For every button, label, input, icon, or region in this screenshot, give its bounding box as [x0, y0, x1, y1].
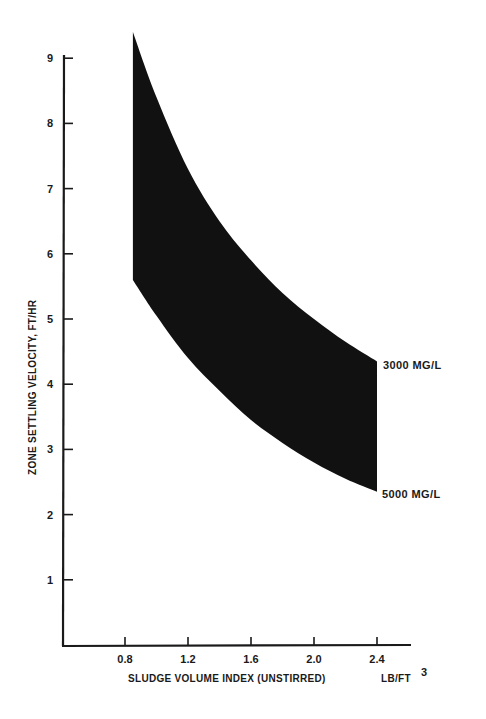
- y-tick-label: 4: [47, 378, 54, 390]
- y-tick-label: 5: [47, 313, 53, 325]
- y-tick-label: 6: [47, 248, 53, 260]
- x-axis: [62, 645, 411, 646]
- y-axis: [63, 55, 64, 646]
- x-axis-units: LB/FT: [381, 673, 411, 684]
- series-label-3000: 3000 MG/L: [383, 359, 442, 371]
- y-axis-ticks: 123456789: [47, 52, 73, 586]
- y-tick-label: 9: [47, 52, 53, 64]
- x-axis-title: SLUDGE VOLUME INDEX (UNSTIRRED): [128, 673, 326, 684]
- y-tick-label: 7: [47, 183, 53, 195]
- y-tick-label: 8: [47, 117, 53, 129]
- x-tick-label: 0.8: [117, 653, 132, 665]
- y-tick-label: 2: [47, 509, 53, 521]
- y-tick-label: 3: [47, 443, 53, 455]
- x-tick-label: 1.6: [243, 653, 258, 665]
- chart-canvas: 123456789 0.81.21.62.02.4 3000 MG/L 5000…: [0, 0, 486, 719]
- settling-velocity-band: [133, 32, 377, 492]
- x-axis-units-superscript: 3: [421, 666, 427, 678]
- y-axis-title: ZONE SETTLING VELOCITY, FT/HR: [27, 299, 38, 475]
- y-tick-label: 1: [47, 574, 53, 586]
- x-tick-label: 1.2: [180, 653, 195, 665]
- x-tick-label: 2.4: [369, 653, 385, 665]
- x-tick-label: 2.0: [306, 653, 321, 665]
- series-label-5000: 5000 MG/L: [382, 488, 441, 500]
- x-axis-ticks: 0.81.21.62.02.4: [117, 637, 385, 665]
